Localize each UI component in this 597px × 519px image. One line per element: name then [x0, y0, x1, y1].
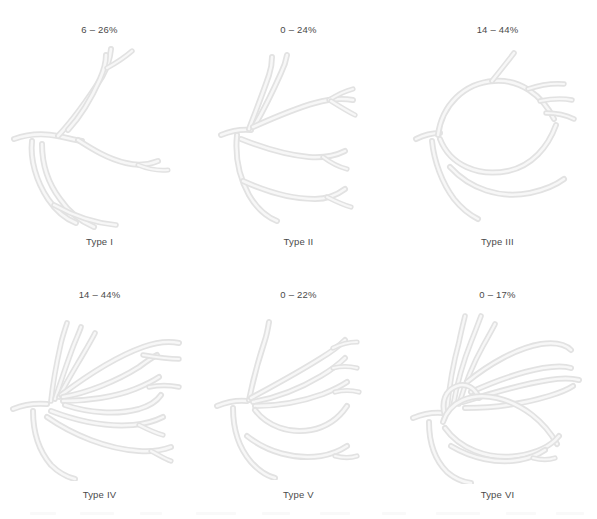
percentage-label-type-5: 0 – 22%	[280, 290, 316, 300]
panel-type-3: 14 – 44%	[398, 0, 597, 262]
figure-root: 6 – 26%	[0, 0, 597, 519]
duct-illustration-type-4	[7, 309, 192, 481]
percentage-label-type-2: 0 – 24%	[280, 25, 316, 35]
illustration-wrap-type-4	[0, 300, 199, 490]
percentage-label-type-4: 14 – 44%	[79, 290, 121, 300]
panel-type-2: 0 – 24%	[199, 0, 398, 262]
duct-illustration-type-3	[408, 43, 588, 228]
illustration-wrap-type-6	[398, 300, 597, 490]
illustration-wrap-type-1	[0, 35, 199, 237]
duct-illustration-type-6	[405, 306, 590, 484]
illustration-wrap-type-3	[398, 35, 597, 237]
illustration-wrap-type-2	[199, 35, 398, 237]
duct-illustration-type-5	[209, 310, 389, 480]
percentage-label-type-1: 6 – 26%	[81, 25, 117, 35]
type-label-type-5: Type V	[283, 490, 314, 500]
percentage-label-type-3: 14 – 44%	[477, 25, 519, 35]
type-label-type-6: Type VI	[481, 490, 515, 500]
panel-type-6: 0 – 17%	[398, 262, 597, 519]
panel-type-5: 0 – 22%	[199, 262, 398, 519]
illustration-wrap-type-5	[199, 300, 398, 490]
duct-illustration-type-1	[10, 41, 190, 231]
type-label-type-4: Type IV	[83, 490, 117, 500]
type-label-type-1: Type I	[86, 237, 113, 247]
panel-grid: 6 – 26%	[0, 0, 597, 519]
duct-illustration-type-2	[211, 43, 386, 228]
percentage-label-type-6: 0 – 17%	[479, 290, 515, 300]
type-label-type-3: Type III	[481, 237, 514, 247]
panel-type-1: 6 – 26%	[0, 0, 199, 262]
panel-type-4: 14 – 44%	[0, 262, 199, 519]
type-label-type-2: Type II	[284, 237, 314, 247]
